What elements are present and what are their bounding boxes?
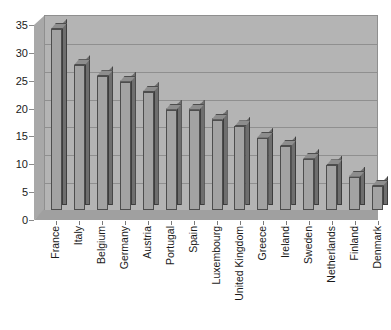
bar[interactable]: [372, 180, 383, 210]
bar[interactable]: [143, 86, 154, 210]
bar-front-face: [143, 92, 154, 210]
x-tick-mark: [56, 221, 57, 225]
x-axis-label: France: [50, 226, 61, 259]
x-axis-label: Austria: [142, 226, 153, 259]
bar-side-face: [108, 66, 113, 205]
x-tick-mark: [332, 221, 333, 225]
x-tick-mark: [309, 221, 310, 225]
y-tick-mark: [29, 220, 34, 221]
x-axis-label: Luxembourg: [211, 226, 222, 284]
y-tick-label: 35: [16, 20, 28, 31]
y-tick-label: 0: [22, 215, 28, 226]
y-tick-label: 15: [16, 131, 28, 142]
bar-front-face: [51, 29, 62, 210]
bar[interactable]: [97, 70, 108, 210]
x-tick-mark: [217, 221, 218, 225]
x-tick-mark: [355, 221, 356, 225]
bar[interactable]: [189, 104, 200, 210]
bar-front-face: [166, 110, 177, 210]
bar-front-face: [212, 120, 223, 210]
x-axis-label: Spain: [188, 226, 199, 253]
x-axis-label: Ireland: [280, 226, 291, 258]
x-axis-label: Finland: [349, 226, 360, 260]
bar[interactable]: [234, 120, 245, 210]
x-axis-label: Belgium: [96, 226, 107, 264]
x-axis-label: United Kingdom: [234, 226, 245, 301]
y-tick-label: 25: [16, 75, 28, 86]
bar-chart: 05101520253035 FranceItalyBelgiumGermany…: [0, 0, 391, 330]
bar-front-face: [303, 159, 314, 210]
bar-front-face: [349, 177, 360, 210]
bar-side-face: [200, 100, 205, 205]
y-tick-label: 30: [16, 47, 28, 58]
x-axis-label: Netherlands: [326, 226, 337, 283]
bar-side-face: [85, 55, 90, 205]
x-axis-label: Portugal: [165, 226, 176, 265]
bar-side-face: [223, 110, 228, 205]
bar[interactable]: [212, 114, 223, 210]
bar-front-face: [189, 110, 200, 210]
bar-front-face: [234, 126, 245, 210]
bar[interactable]: [166, 104, 177, 210]
bar[interactable]: [120, 76, 131, 210]
bars-layer: [34, 15, 378, 220]
bar[interactable]: [349, 171, 360, 210]
bar-side-face: [177, 100, 182, 205]
x-axis-label: Sweden: [303, 226, 314, 264]
x-axis-labels: FranceItalyBelgiumGermanyAustriaPortugal…: [34, 226, 378, 330]
bar[interactable]: [51, 23, 62, 210]
bar-side-face: [291, 136, 296, 205]
x-tick-mark: [378, 221, 379, 225]
x-tick-mark: [102, 221, 103, 225]
bar[interactable]: [74, 59, 85, 210]
bar[interactable]: [326, 159, 337, 210]
y-axis: 05101520253035: [0, 0, 34, 230]
x-tick-mark: [171, 221, 172, 225]
bar-side-face: [131, 72, 136, 205]
bar-side-face: [62, 19, 67, 205]
bar-side-face: [268, 128, 273, 205]
bar[interactable]: [280, 140, 291, 210]
x-tick-mark: [79, 221, 80, 225]
x-axis-label: Italy: [73, 226, 84, 245]
x-tick-mark: [286, 221, 287, 225]
x-axis-label: Germany: [119, 226, 130, 269]
bar-side-face: [245, 116, 250, 205]
bar-front-face: [280, 146, 291, 210]
bar-front-face: [257, 138, 268, 210]
x-tick-mark: [240, 221, 241, 225]
bar-front-face: [372, 186, 383, 210]
x-tick-mark: [148, 221, 149, 225]
x-tick-mark: [125, 221, 126, 225]
bar-front-face: [120, 82, 131, 210]
bar-side-face: [154, 82, 159, 205]
bar[interactable]: [257, 132, 268, 210]
y-tick-label: 10: [16, 159, 28, 170]
x-axis-label: Denmark: [372, 226, 383, 269]
bar-front-face: [97, 76, 108, 210]
bar[interactable]: [303, 153, 314, 210]
bar-front-face: [326, 165, 337, 210]
bar-front-face: [74, 65, 85, 210]
y-tick-label: 20: [16, 103, 28, 114]
x-tick-mark: [263, 221, 264, 225]
y-tick-label: 5: [22, 187, 28, 198]
x-axis-label: Greece: [257, 226, 268, 260]
x-tick-mark: [194, 221, 195, 225]
